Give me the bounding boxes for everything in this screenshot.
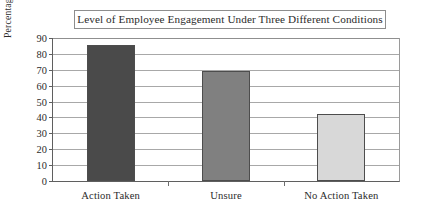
- x-axis-tick-mark: [168, 181, 169, 186]
- bar-chart-figure: Level of Employee Engagement Under Three…: [0, 0, 421, 211]
- y-axis-title: Percentage Favorable: [0, 0, 14, 66]
- y-axis-tick-mark: [49, 133, 53, 134]
- x-axis-category-label: No Action Taken: [304, 190, 378, 201]
- y-axis-tick-label: 10: [37, 160, 47, 171]
- chart-title: Level of Employee Engagement Under Three…: [77, 14, 382, 25]
- y-axis-tick-mark: [49, 86, 53, 87]
- bar: [202, 71, 250, 181]
- y-axis-tick-label: 0: [42, 176, 47, 187]
- y-axis-tick-label: 80: [37, 48, 47, 59]
- y-axis-tick-mark: [49, 54, 53, 55]
- y-axis-tick-mark: [49, 181, 53, 182]
- y-axis-tick-mark: [49, 149, 53, 150]
- y-axis-tick-mark: [49, 38, 53, 39]
- y-axis-tick-mark: [49, 102, 53, 103]
- chart-title-box: Level of Employee Engagement Under Three…: [74, 10, 386, 29]
- gridline: [53, 38, 399, 39]
- y-axis-tick-label: 90: [37, 33, 47, 44]
- y-axis-tick-mark: [49, 117, 53, 118]
- y-axis-tick-label: 50: [37, 96, 47, 107]
- y-axis-tick-label: 70: [37, 64, 47, 75]
- bar: [87, 45, 135, 181]
- y-axis-tick-label: 40: [37, 112, 47, 123]
- x-axis-category-label: Action Taken: [81, 190, 140, 201]
- plot-area: 0102030405060708090 Action TakenUnsureNo…: [52, 38, 400, 182]
- y-axis-tick-label: 60: [37, 80, 47, 91]
- y-axis-tick-label: 20: [37, 144, 47, 155]
- gridline: [53, 181, 399, 182]
- bar: [317, 114, 365, 181]
- x-axis-tick-mark: [284, 181, 285, 186]
- y-axis-tick-label: 30: [37, 128, 47, 139]
- x-axis-category-label: Unsure: [210, 190, 242, 201]
- y-axis-tick-mark: [49, 165, 53, 166]
- y-axis-tick-mark: [49, 70, 53, 71]
